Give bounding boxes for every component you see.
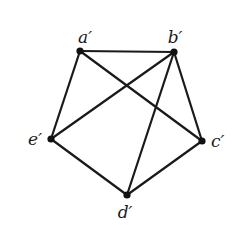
nodes-group (47, 47, 205, 198)
edges-group (51, 51, 202, 195)
node-label-b: b′ (168, 27, 183, 47)
node-b (170, 48, 177, 55)
edge-c-d (127, 141, 202, 195)
node-label-d: d′ (118, 202, 133, 222)
edge-b-d (127, 52, 174, 195)
node-d (123, 191, 130, 198)
node-c (198, 137, 205, 144)
node-label-e: e′ (28, 129, 42, 149)
graph-diagram: a′b′c′d′e′ (0, 0, 236, 234)
edge-b-c (174, 52, 202, 141)
edge-a-c (80, 51, 202, 141)
node-label-c: c′ (211, 131, 225, 151)
node-a (76, 47, 83, 54)
edge-b-e (51, 52, 174, 139)
edge-a-e (51, 51, 80, 139)
node-label-a: a′ (78, 27, 92, 47)
edge-e-d (51, 139, 127, 195)
node-e (47, 135, 54, 142)
edge-a-b (80, 51, 174, 52)
